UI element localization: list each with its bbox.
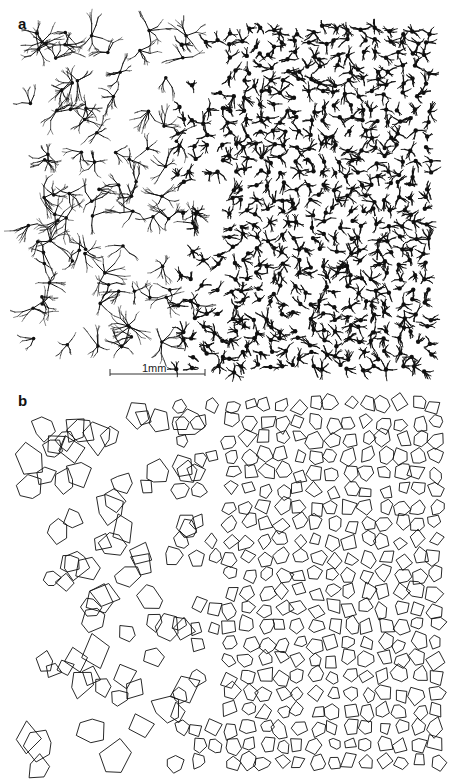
dendritic-cells-drawing: [0, 0, 462, 390]
panel-label-b: b: [18, 392, 27, 409]
panel-label-a: a: [18, 15, 26, 32]
cell-territory-polygons: [0, 390, 462, 780]
panel-a: a 1mm: [0, 0, 462, 390]
scale-bar-label: 1mm: [142, 362, 166, 374]
panel-b: b: [0, 390, 462, 780]
